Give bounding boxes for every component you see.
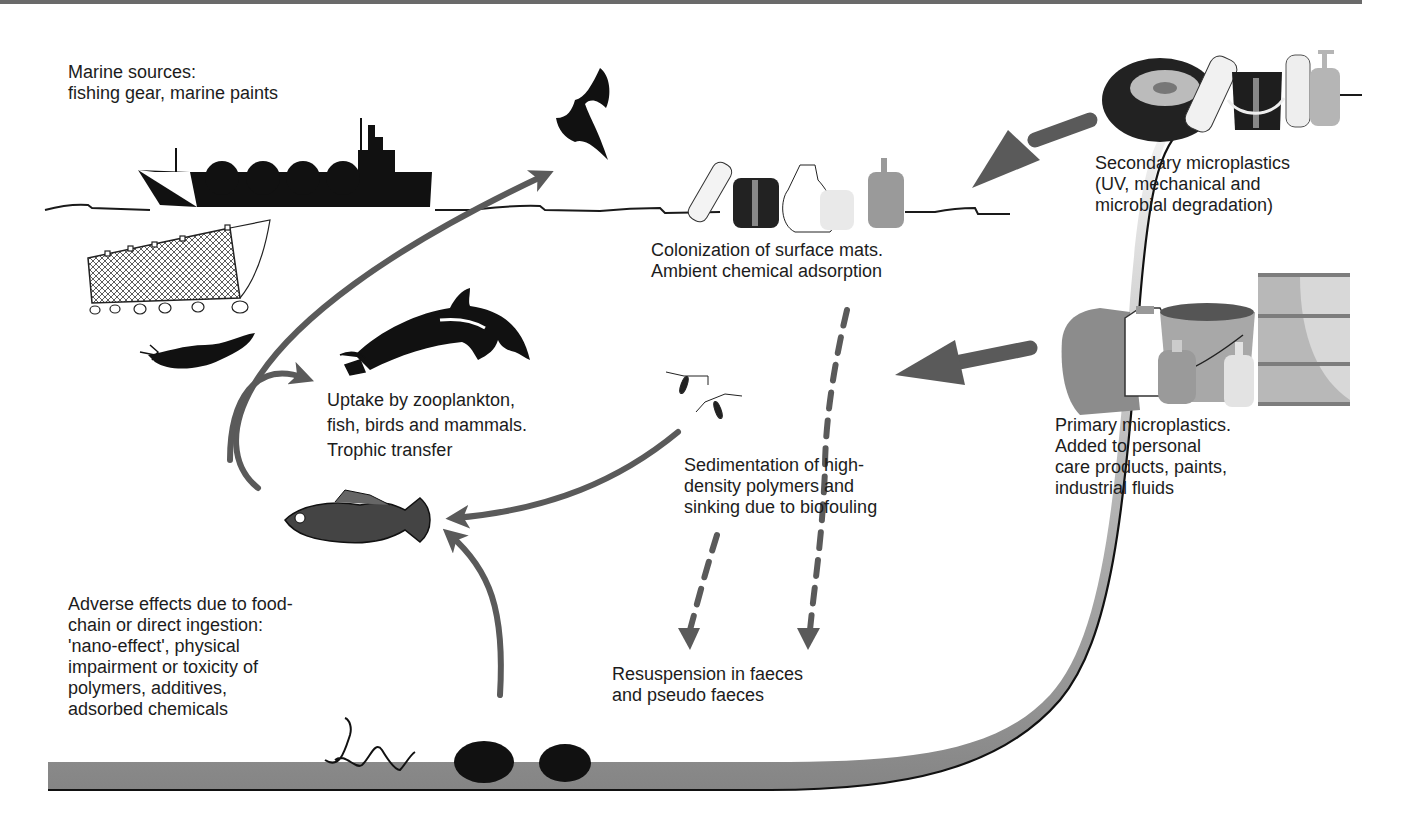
label-sedimentation: Sedimentation of high- density polymers … [684,455,877,518]
label-resuspension: Resuspension in faeces and pseudo faeces [612,664,803,706]
label-line: Sedimentation of high- [684,455,877,476]
fish-icon [285,490,430,543]
label-line: (UV, mechanical and [1095,174,1290,195]
seal-icon [140,333,255,369]
label-line: Colonization of surface mats. [651,240,883,261]
label-colonization: Colonization of surface mats. Ambient ch… [651,240,883,282]
label-line: chain or direct ingestion: [68,615,293,636]
label-line: care products, paints, [1055,457,1231,478]
label-adverse-effects: Adverse effects due to food- chain or di… [68,594,293,720]
label-secondary-microplastics: Secondary microplastics (UV, mechanical … [1095,153,1290,216]
soap-dispenser-icon [1310,50,1340,126]
barrel-icon [1258,273,1350,406]
label-line: Added to personal [1055,436,1231,457]
secondary-input-arrow [972,120,1090,188]
label-line: fish, birds and mammals. [327,413,527,438]
label-primary-microplastics: Primary microplastics. Added to personal… [1055,415,1231,499]
label-line: 'nano-effect', physical [68,636,293,657]
label-line: impairment or toxicity of [68,657,293,678]
bucket-icon [1228,72,1284,130]
label-line: polymers, additives, [68,678,293,699]
label-line: Primary microplastics. [1055,415,1231,436]
label-line: Secondary microplastics [1095,153,1290,174]
dolphin-icon [340,288,530,375]
fishing-net-icon [88,220,270,314]
label-line: Uptake by zooplankton, [327,388,527,413]
label-line: density polymers and [684,476,877,497]
label-uptake: Uptake by zooplankton, fish, birds and m… [327,388,527,463]
label-line: Resuspension in faeces [612,664,803,685]
label-line: Adverse effects due to food- [68,594,293,615]
label-line: microbial degradation) [1095,195,1290,216]
label-marine-sources: Marine sources: fishing gear, marine pai… [68,62,278,104]
label-line: industrial fluids [1055,478,1231,499]
label-line: fishing gear, marine paints [68,83,278,104]
label-line: Trophic transfer [327,438,527,463]
primary-input-arrow [895,340,1030,385]
zooplankton-icon [666,372,742,419]
sedimentation-arrowheads [678,628,820,650]
label-line: and pseudo faeces [612,685,803,706]
label-line: Ambient chemical adsorption [651,261,883,282]
floating-debris-icon [685,158,904,232]
bird-icon [556,68,609,160]
label-line: sinking due to biofouling [684,497,877,518]
label-line: Marine sources: [68,62,278,83]
ship-icon [138,118,432,207]
label-line: adsorbed chemicals [68,699,293,720]
